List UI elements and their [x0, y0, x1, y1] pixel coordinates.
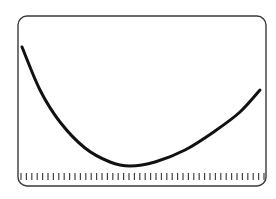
diagram-canvas [0, 0, 276, 199]
curve-diagram [0, 0, 276, 199]
rounded-frame [18, 16, 266, 186]
